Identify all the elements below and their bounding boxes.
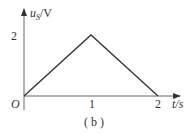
y-axis-label: uS/V [30,6,52,22]
data-series-line [24,35,158,96]
origin-label: O [11,97,20,111]
y-tick-label-2: 2 [11,29,17,43]
x-tick-label-1: 1 [89,97,95,111]
x-tick-label-2: 2 [155,97,161,111]
figure-caption: ( b ) [84,115,104,129]
x-axis-label: t/s [172,97,184,111]
chart: uS/V 2 O 1 2 t/s ( b ) [0,0,189,135]
